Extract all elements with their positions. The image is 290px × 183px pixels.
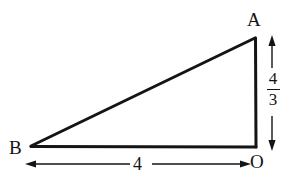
height-measure-label: 4 3 — [264, 70, 282, 109]
height-measure-arrowhead-bottom — [268, 140, 275, 151]
hypotenuse-line — [31, 38, 255, 146]
base-measure-label: 4 — [133, 155, 142, 173]
vertex-label-b: B — [9, 138, 22, 157]
vertex-label-a: A — [247, 10, 261, 29]
right-triangle-diagram: A B O 4 4 3 — [0, 0, 290, 183]
height-measure-arrowhead-top — [268, 35, 275, 46]
vertex-label-o: O — [250, 152, 264, 171]
triangle-outline — [31, 38, 256, 147]
horizontal-leg-line — [31, 147, 256, 148]
base-measure-arrowhead-left — [25, 160, 36, 167]
height-measure-numerator: 4 — [264, 70, 282, 88]
vertical-leg-line — [256, 38, 257, 147]
height-measure-denominator: 3 — [264, 91, 282, 109]
